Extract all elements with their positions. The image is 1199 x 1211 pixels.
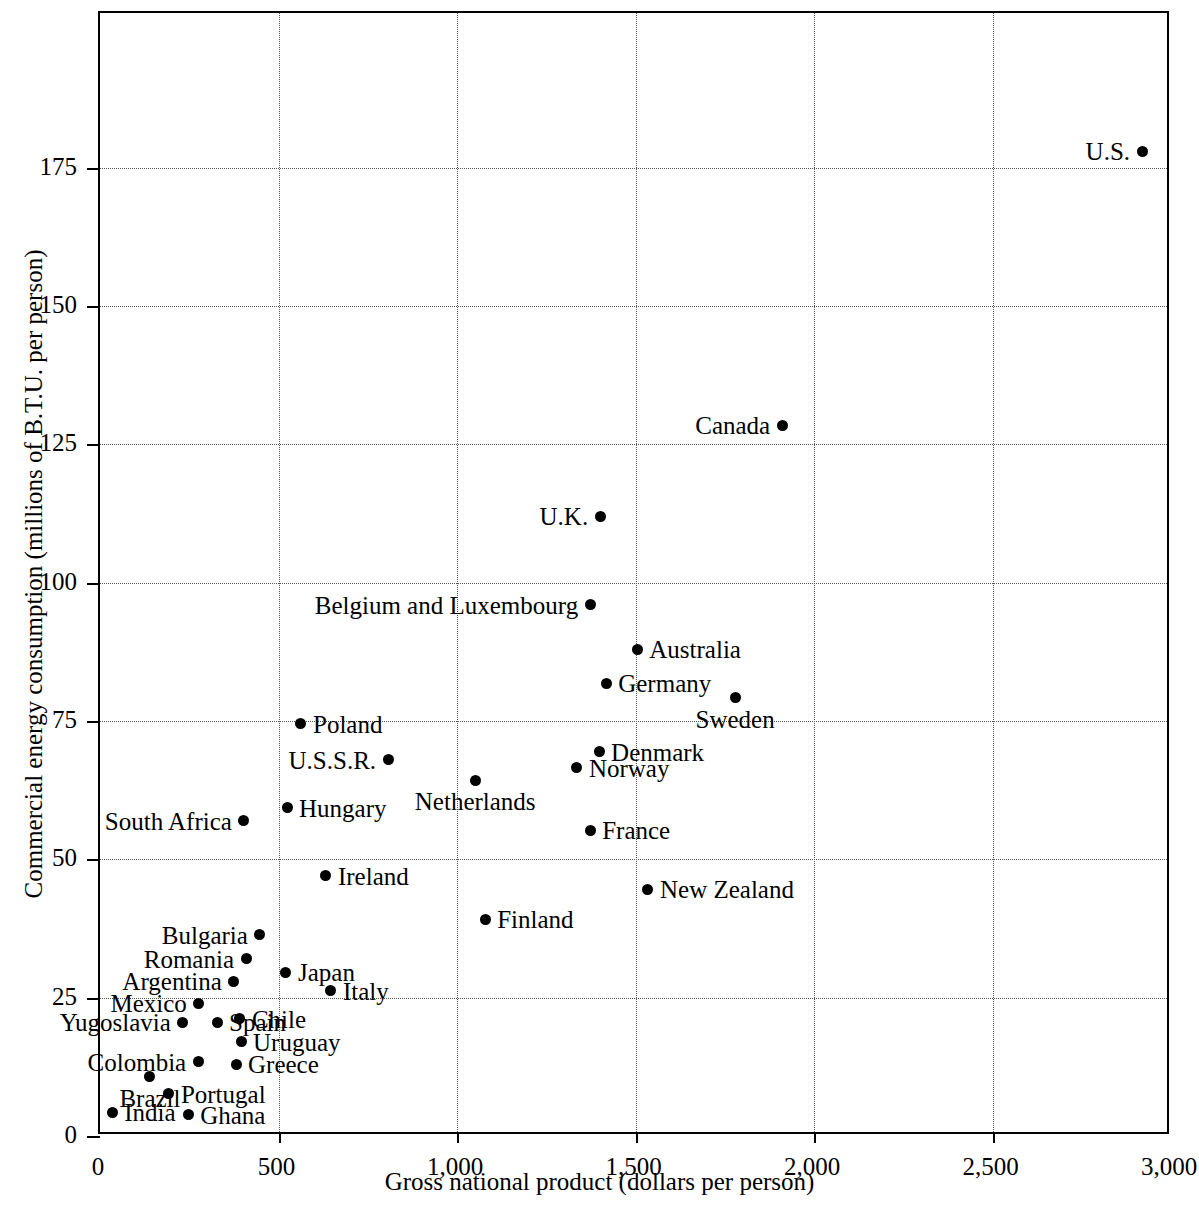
- gridline-vertical: [279, 13, 280, 1132]
- data-point: [295, 718, 306, 729]
- data-point-label: Canada: [695, 413, 770, 438]
- y-tick-label: 0: [5, 1122, 77, 1147]
- data-point: [470, 775, 481, 786]
- data-point: [383, 754, 394, 765]
- data-point-label: South Africa: [105, 808, 232, 833]
- data-point-label: Ghana: [200, 1102, 265, 1127]
- gridline-vertical: [636, 13, 637, 1132]
- data-point-label: Colombia: [88, 1049, 187, 1074]
- data-point: [585, 825, 596, 836]
- data-point-label: Finland: [497, 907, 573, 932]
- y-tick-mark: [87, 721, 100, 723]
- gridline-horizontal: [100, 444, 1167, 445]
- data-point: [632, 644, 643, 655]
- data-point: [183, 1109, 194, 1120]
- data-point: [642, 884, 653, 895]
- y-tick-label: 25: [5, 984, 77, 1009]
- y-axis-title: Commercial energy consumption (millions …: [20, 224, 48, 924]
- data-point-label: Ireland: [338, 863, 409, 888]
- data-point-label: U.K.: [540, 504, 589, 529]
- data-point-label: Yugoslavia: [60, 1010, 171, 1035]
- data-point-label: Netherlands: [415, 789, 536, 814]
- plot-area: U.S.CanadaU.K.Belgium and LuxembourgAust…: [98, 11, 1169, 1134]
- gridline-vertical: [457, 13, 458, 1132]
- scatter-chart-figure: U.S.CanadaU.K.Belgium and LuxembourgAust…: [0, 0, 1199, 1211]
- data-point-label: U.S.S.R.: [289, 747, 377, 772]
- x-tick-mark: [636, 1132, 638, 1143]
- data-point-label: India: [124, 1100, 175, 1125]
- data-point: [254, 929, 265, 940]
- data-point-label: Poland: [313, 711, 382, 736]
- y-tick-mark: [87, 444, 100, 446]
- x-tick-mark: [993, 1132, 995, 1143]
- x-tick-mark: [814, 1132, 816, 1143]
- gridline-horizontal: [100, 168, 1167, 169]
- data-point-label: Greece: [248, 1052, 319, 1077]
- data-point: [144, 1071, 155, 1082]
- x-tick-mark: [457, 1132, 459, 1143]
- data-point: [177, 1017, 188, 1028]
- gridline-horizontal: [100, 721, 1167, 722]
- y-tick-mark: [87, 1136, 100, 1138]
- x-axis-title: Gross national product (dollars per pers…: [0, 1168, 1199, 1196]
- gridline-horizontal: [100, 859, 1167, 860]
- gridline-horizontal: [100, 583, 1167, 584]
- data-point: [228, 976, 239, 987]
- data-point-label: Belgium and Luxembourg: [315, 592, 578, 617]
- data-point-label: Italy: [343, 978, 389, 1003]
- data-point: [325, 985, 336, 996]
- data-point-label: U.S.: [1086, 139, 1130, 164]
- data-point: [231, 1059, 242, 1070]
- data-point: [730, 692, 741, 703]
- data-point: [193, 1056, 204, 1067]
- data-point: [241, 953, 252, 964]
- y-tick-mark: [87, 859, 100, 861]
- y-tick-mark: [87, 583, 100, 585]
- data-point-label: Germany: [618, 671, 711, 696]
- gridline-vertical: [814, 13, 815, 1132]
- x-tick-mark: [279, 1132, 281, 1143]
- gridline-horizontal: [100, 306, 1167, 307]
- gridline-horizontal: [100, 998, 1167, 999]
- y-tick-mark: [87, 306, 100, 308]
- data-point-label: Australia: [649, 637, 741, 662]
- y-tick-mark: [87, 168, 100, 170]
- data-point: [595, 511, 606, 522]
- data-point: [1137, 146, 1148, 157]
- data-point: [280, 967, 291, 978]
- data-point: [238, 815, 249, 826]
- data-point: [571, 762, 582, 773]
- data-point: [601, 678, 612, 689]
- data-point-label: Hungary: [299, 795, 386, 820]
- data-point: [107, 1107, 118, 1118]
- y-tick-mark: [87, 998, 100, 1000]
- data-point: [193, 998, 204, 1009]
- data-point-label: Bulgaria: [162, 922, 248, 947]
- data-point: [236, 1036, 247, 1047]
- gridline-vertical: [993, 13, 994, 1132]
- data-point-label: Sweden: [696, 707, 775, 732]
- data-point: [282, 802, 293, 813]
- y-tick-label: 175: [5, 154, 77, 179]
- data-point-label: Norway: [589, 755, 670, 780]
- data-point-label: New Zealand: [660, 877, 794, 902]
- data-point: [777, 420, 788, 431]
- data-point-label: France: [602, 818, 670, 843]
- data-point: [320, 870, 331, 881]
- data-point: [585, 599, 596, 610]
- data-point: [212, 1017, 223, 1028]
- data-point: [480, 914, 491, 925]
